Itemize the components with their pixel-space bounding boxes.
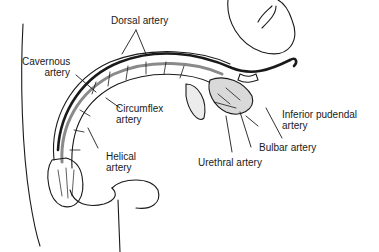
label-circumflex-artery: Circumflex artery [116, 103, 163, 125]
label-inferior-pudendal-artery: Inferior pudendal artery [282, 109, 357, 131]
label-helical-artery: Helical artery [106, 151, 136, 173]
anatomy-figure: Dorsal artery Cavernous artery Circumfle… [0, 0, 379, 252]
label-urethral-artery: Urethral artery [198, 157, 262, 168]
label-cavernous-artery: Cavernous artery [22, 56, 70, 78]
label-dorsal-artery: Dorsal artery [111, 15, 168, 26]
label-bulbar-artery: Bulbar artery [259, 142, 316, 153]
